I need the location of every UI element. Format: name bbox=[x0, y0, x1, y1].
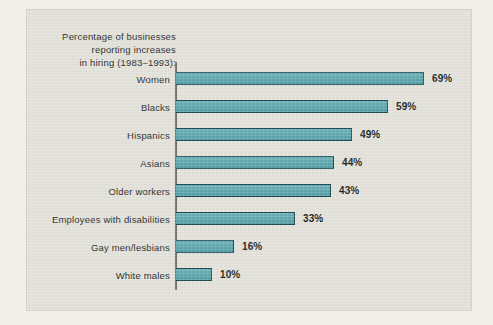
bar-value-label: 43% bbox=[339, 184, 359, 198]
bar-row: Hispanics49% bbox=[27, 122, 471, 150]
bar-category-label: Gay men/lesbians bbox=[91, 241, 170, 254]
bar-category-label: Hispanics bbox=[127, 129, 170, 142]
bar-row: White males10% bbox=[27, 262, 471, 290]
bar-row: Employees with disabilities33% bbox=[27, 206, 471, 234]
bar-category-label: Older workers bbox=[108, 185, 170, 198]
bar-row: Blacks59% bbox=[27, 94, 471, 122]
bar-category-label: White males bbox=[116, 269, 170, 282]
bar bbox=[176, 240, 234, 253]
bar-row: Women69% bbox=[27, 66, 471, 94]
bar-row: Older workers43% bbox=[27, 178, 471, 206]
bar-value-label: 33% bbox=[303, 212, 323, 226]
bar-row: Gay men/lesbians16% bbox=[27, 234, 471, 262]
bar-category-label: Blacks bbox=[141, 101, 170, 114]
bar-value-label: 59% bbox=[396, 100, 416, 114]
bar-row: Asians44% bbox=[27, 150, 471, 178]
bar bbox=[176, 268, 212, 281]
bar bbox=[176, 156, 334, 169]
bar-value-label: 44% bbox=[342, 156, 362, 170]
bar bbox=[176, 212, 295, 225]
bar-value-label: 10% bbox=[220, 268, 240, 282]
plot-area: Women69%Blacks59%Hispanics49%Asians44%Ol… bbox=[27, 10, 471, 310]
bar-category-label: Asians bbox=[140, 157, 170, 170]
bar-value-label: 49% bbox=[360, 128, 380, 142]
bar bbox=[176, 184, 331, 197]
bar bbox=[176, 100, 388, 113]
bar-category-label: Employees with disabilities bbox=[52, 213, 170, 226]
bar-value-label: 69% bbox=[432, 72, 452, 86]
bar bbox=[176, 128, 352, 141]
figure: Percentage of businesses reporting incre… bbox=[0, 0, 493, 325]
chart-panel: Percentage of businesses reporting incre… bbox=[27, 10, 471, 310]
bar-category-label: Women bbox=[136, 73, 170, 86]
bar bbox=[176, 72, 424, 85]
bar-value-label: 16% bbox=[242, 240, 262, 254]
